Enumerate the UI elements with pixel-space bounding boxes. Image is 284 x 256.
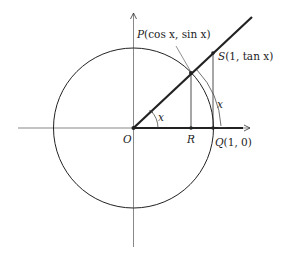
label-Q: Q(1, 0) [215,136,252,149]
point-P [189,71,193,75]
label-S: S(1, tan x) [218,50,273,62]
label-R: R [186,133,195,145]
point-Q [211,126,215,130]
point-R [189,126,193,130]
label-angle-outer: x [217,98,223,110]
label-O: O [123,133,132,145]
point-S [211,51,215,55]
unit-circle-diagram: P(cos x, sin x) S(1, tan x) O R Q(1, 0) … [0,0,284,256]
label-angle-inner: x [158,111,164,123]
leader-line-P [176,46,191,72]
label-P: P(cos x, sin x) [136,28,211,40]
angle-arc-inner [151,111,158,128]
point-O [132,126,136,130]
